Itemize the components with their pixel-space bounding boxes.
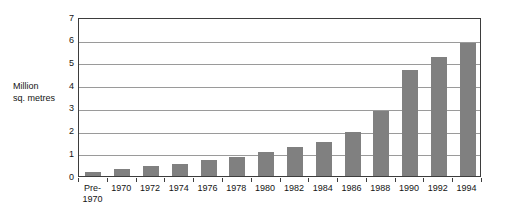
x-axis-tick xyxy=(107,178,108,182)
x-axis-tick xyxy=(452,178,453,182)
bars-layer xyxy=(79,19,480,176)
bar xyxy=(172,164,188,177)
x-axis-tick-label: 1976 xyxy=(193,183,222,194)
y-axis-tick-label: 0 xyxy=(60,173,74,182)
x-axis-tick xyxy=(78,178,79,182)
bar xyxy=(114,169,130,176)
x-axis-tick-label: 1984 xyxy=(308,183,337,194)
x-axis-tick-label: 1972 xyxy=(136,183,165,194)
x-axis-tick xyxy=(395,178,396,182)
x-axis-tick-label: 1978 xyxy=(222,183,251,194)
bar xyxy=(229,157,245,176)
y-axis-tick-labels: 76543210 xyxy=(58,18,74,177)
y-axis-tick-label: 5 xyxy=(60,59,74,68)
y-axis-tick-label: 3 xyxy=(60,104,74,113)
x-axis-tick xyxy=(481,178,482,182)
bar xyxy=(402,70,418,176)
x-axis-tick xyxy=(193,178,194,182)
x-axis-tick-label: 1990 xyxy=(395,183,424,194)
x-axis-tick xyxy=(423,178,424,182)
x-axis-tick-label: 1970 xyxy=(107,183,136,194)
bar xyxy=(287,147,303,177)
bar xyxy=(316,142,332,176)
x-axis-tick-label: Pre- 1970 xyxy=(78,183,107,205)
bar xyxy=(201,160,217,176)
bar xyxy=(460,43,476,176)
x-axis-tick-label: 1994 xyxy=(452,183,481,194)
bar xyxy=(345,132,361,176)
y-axis-tick-label: 4 xyxy=(60,82,74,91)
bar-chart-figure: Million sq. metres 76543210 Pre- 1970197… xyxy=(0,0,505,221)
x-axis-tick xyxy=(251,178,252,182)
x-axis-tick-labels: Pre- 19701970197219741976197819801982198… xyxy=(0,183,505,219)
x-axis-tick xyxy=(366,178,367,182)
x-axis-tick xyxy=(337,178,338,182)
x-axis-tick xyxy=(280,178,281,182)
bar xyxy=(373,111,389,176)
bar xyxy=(258,152,274,176)
x-axis-tick-label: 1992 xyxy=(423,183,452,194)
bar xyxy=(85,172,101,177)
x-axis-tick xyxy=(308,178,309,182)
x-axis-tick xyxy=(136,178,137,182)
x-axis-tick xyxy=(222,178,223,182)
x-axis-tick-label: 1982 xyxy=(280,183,309,194)
y-axis-tick-label: 2 xyxy=(60,127,74,136)
x-axis-tick-label: 1988 xyxy=(366,183,395,194)
y-axis-tick-label: 6 xyxy=(60,36,74,45)
x-axis-tick xyxy=(164,178,165,182)
x-axis-tick-label: 1974 xyxy=(164,183,193,194)
y-axis-tick-label: 1 xyxy=(60,150,74,159)
plot-area xyxy=(78,18,481,177)
x-axis-tick-label: 1980 xyxy=(251,183,280,194)
y-axis-tick-label: 7 xyxy=(60,14,74,23)
bar xyxy=(431,57,447,176)
bar xyxy=(143,166,159,176)
x-axis-tick-label: 1986 xyxy=(337,183,366,194)
